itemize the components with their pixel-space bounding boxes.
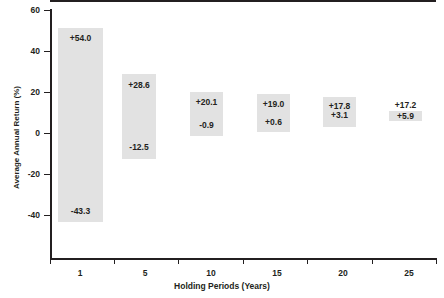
y-tick-mark <box>44 133 50 134</box>
y-tick-mark <box>44 92 50 93</box>
x-tick-label: 10 <box>191 268 231 278</box>
bar-value-label-high: +28.6 <box>120 80 158 90</box>
x-tick-mark <box>50 258 51 264</box>
y-tick-mark <box>44 215 50 216</box>
x-tick-mark <box>114 258 115 264</box>
y-axis-line <box>50 9 52 259</box>
y-tick-label: -20 <box>4 169 40 179</box>
bar-value-label-high: +54.0 <box>58 33 103 43</box>
x-tick-label: 1 <box>60 268 100 278</box>
y-tick-label: 0 <box>4 128 40 138</box>
bar-value-label-low: +0.6 <box>256 117 291 127</box>
bar-value-label-low: -0.9 <box>189 120 224 130</box>
zero-reference-line <box>50 0 436 2</box>
x-axis-title: Holding Periods (Years) <box>0 281 444 291</box>
bar-value-label-low: +3.1 <box>322 110 357 120</box>
x-tick-mark <box>307 258 308 264</box>
bar-value-label-low: +5.9 <box>388 111 423 121</box>
x-tick-mark <box>436 258 437 264</box>
bar <box>58 28 103 222</box>
x-tick-mark <box>178 258 179 264</box>
y-tick-mark <box>44 51 50 52</box>
x-tick-label: 5 <box>125 268 165 278</box>
bar-value-label-high: +17.2 <box>388 100 423 110</box>
y-tick-label: 40 <box>4 46 40 56</box>
chart-container: Average Annual Return (%) 6040200-20-40 … <box>0 0 444 298</box>
y-tick-label: 60 <box>4 5 40 15</box>
bar-value-label-low: -43.3 <box>58 206 103 216</box>
y-tick-mark <box>44 10 50 11</box>
x-tick-mark <box>372 258 373 264</box>
x-tick-mark <box>243 258 244 264</box>
y-tick-label: -40 <box>4 210 40 220</box>
bar-value-label-high: +20.1 <box>189 97 224 107</box>
y-tick-label: 20 <box>4 87 40 97</box>
x-tick-label: 15 <box>257 268 297 278</box>
bar-value-label-high: +19.0 <box>256 99 291 109</box>
bar-value-label-low: -12.5 <box>120 142 158 152</box>
y-tick-mark <box>44 174 50 175</box>
x-tick-label: 25 <box>389 268 429 278</box>
x-tick-label: 20 <box>323 268 363 278</box>
